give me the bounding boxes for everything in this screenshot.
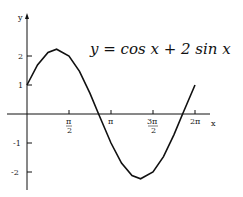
y-tick-label-1: 1	[18, 81, 23, 90]
y-axis-label: y	[17, 13, 23, 22]
x-tick-label-pi: π	[108, 117, 113, 126]
x-tick-label-pi-half: π	[66, 117, 71, 126]
x-tick-label-3pi-half: 3π	[147, 117, 157, 126]
y-tick-label-2: 2	[18, 52, 23, 61]
x-tick-label-3pi-half-den: 2	[151, 126, 156, 135]
x-axis-label: x	[211, 119, 216, 128]
chart: y x 2 1 -1 -2 π 2 π 3π 2 2π y = cos x + …	[0, 0, 243, 197]
y-axis-arrow-icon	[25, 13, 29, 19]
y-tick-label-m1: -1	[13, 139, 21, 148]
x-tick-label-2pi: 2π	[190, 117, 200, 126]
x-tick-label-pi-half-den: 2	[67, 126, 72, 135]
x-ticks	[69, 110, 195, 114]
y-tick-label-m2: -2	[11, 168, 19, 177]
equation-label: y = cos x + 2 sin x	[89, 40, 231, 58]
